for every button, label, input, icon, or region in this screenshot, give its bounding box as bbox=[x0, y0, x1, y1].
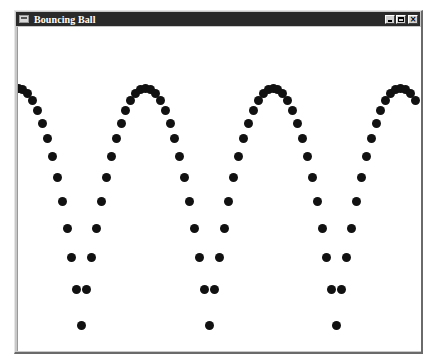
ball-dot bbox=[205, 321, 214, 330]
ball-dot bbox=[58, 197, 67, 206]
ball-dot bbox=[102, 173, 111, 182]
ball-dot bbox=[82, 285, 91, 294]
window-controls: × bbox=[384, 15, 418, 24]
ball-dot bbox=[161, 106, 170, 115]
app-window: Bouncing Ball × bbox=[14, 10, 423, 354]
ball-dot bbox=[249, 106, 258, 115]
ball-dot bbox=[215, 253, 224, 262]
ball-dot bbox=[229, 173, 238, 182]
ball-dot bbox=[220, 224, 229, 233]
ball-dot bbox=[313, 197, 322, 206]
ball-dot bbox=[43, 134, 52, 143]
ball-dot bbox=[112, 134, 121, 143]
app-window-icon[interactable] bbox=[19, 15, 29, 23]
ball-dot bbox=[175, 152, 184, 161]
ball-dot bbox=[33, 106, 42, 115]
ball-dot bbox=[337, 285, 346, 294]
ball-dot bbox=[239, 134, 248, 143]
ball-dot bbox=[190, 224, 199, 233]
ball-dot bbox=[327, 285, 336, 294]
ball-dot bbox=[170, 134, 179, 143]
ball-dot bbox=[210, 285, 219, 294]
ball-dot bbox=[200, 285, 209, 294]
window-title: Bouncing Ball bbox=[34, 14, 96, 25]
ball-dot bbox=[166, 119, 175, 128]
title-bar[interactable]: Bouncing Ball × bbox=[16, 12, 420, 26]
ball-dot bbox=[347, 224, 356, 233]
close-button[interactable]: × bbox=[408, 15, 418, 24]
minimize-button[interactable] bbox=[385, 15, 395, 24]
ball-dot bbox=[77, 321, 86, 330]
ball-dot bbox=[107, 152, 116, 161]
ball-dot bbox=[298, 134, 307, 143]
ball-dot bbox=[372, 119, 381, 128]
ball-dot bbox=[376, 106, 385, 115]
ball-dot bbox=[352, 197, 361, 206]
ball-dot bbox=[87, 253, 96, 262]
ball-dot bbox=[283, 96, 292, 105]
ball-dot bbox=[244, 119, 253, 128]
ball-dot bbox=[48, 152, 57, 161]
maximize-button[interactable] bbox=[396, 15, 406, 24]
ball-dot bbox=[332, 321, 341, 330]
ball-dot bbox=[97, 197, 106, 206]
ball-dot bbox=[92, 224, 101, 233]
ball-dot bbox=[185, 197, 194, 206]
ball-dot bbox=[367, 134, 376, 143]
ball-dot bbox=[180, 173, 189, 182]
ball-dot bbox=[121, 106, 130, 115]
ball-dot bbox=[303, 152, 312, 161]
ball-dot bbox=[322, 253, 331, 262]
ball-dot bbox=[72, 285, 81, 294]
ball-dot bbox=[117, 119, 126, 128]
ball-dot bbox=[224, 197, 233, 206]
ball-dot bbox=[67, 253, 76, 262]
ball-dot bbox=[318, 224, 327, 233]
ball-dot bbox=[308, 173, 317, 182]
ball-dot bbox=[342, 253, 351, 262]
ball-dot bbox=[63, 224, 72, 233]
ball-dot bbox=[288, 106, 297, 115]
ball-dot bbox=[293, 119, 302, 128]
ball-dot bbox=[28, 96, 37, 105]
ball-dot bbox=[362, 152, 371, 161]
ball-dot bbox=[411, 96, 420, 105]
ball-dot bbox=[357, 173, 366, 182]
ball-dot bbox=[195, 253, 204, 262]
ball-dot bbox=[234, 152, 243, 161]
ball-dot bbox=[156, 96, 165, 105]
ball-dot bbox=[38, 119, 47, 128]
ball-canvas bbox=[17, 27, 421, 351]
ball-dot bbox=[53, 173, 62, 182]
